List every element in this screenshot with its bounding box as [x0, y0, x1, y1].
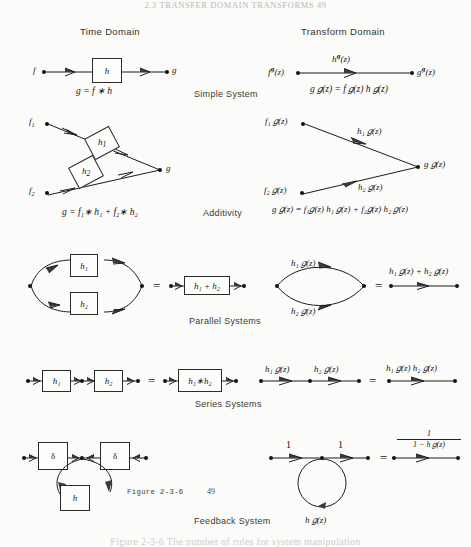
feedback-transform-output-node [366, 456, 370, 460]
feedback-transform-loop-label: h 𝑔(z) [305, 516, 326, 525]
running-head: 2.3 TRANSFER DOMAIN TRANSFORMS 49 [0, 0, 471, 10]
series-transform-edge1-label: h₁ 𝑔(z) [265, 365, 289, 374]
parallel-transform-result-arrow [391, 280, 457, 292]
simple-time-input-label: f [33, 66, 36, 75]
series-transform-arrow-2 [310, 375, 360, 387]
row-label-parallel-systems: Parallel Systems [189, 316, 261, 326]
row-label-feedback-system: Feedback System [194, 516, 271, 526]
series-time-result-output-node [234, 379, 238, 383]
additivity-time-output-node [158, 168, 162, 172]
figure-number: Figure 2-3-6 [127, 488, 184, 496]
feedback-transform-equals: = [380, 450, 387, 466]
parallel-time-block1: h₁ [70, 254, 98, 277]
parallel-transform-result-output-node [455, 284, 459, 288]
feedback-time-loop-block: h [60, 485, 90, 511]
additivity-time-edges [0, 110, 200, 210]
series-transform-result-output-node [453, 379, 457, 383]
feedback-time-output-node [144, 456, 148, 460]
figure-caption: Figure 2-3-6 The number of rules for sys… [0, 536, 471, 547]
parallel-time-result-block: h₁ + h₂ [184, 276, 230, 295]
feedback-transform-edge1-label: 1 [286, 440, 291, 450]
simple-transform-output-node [410, 71, 414, 75]
simple-transform-output-label: gg(z) [417, 67, 435, 77]
parallel-transform-result-label: h₁ 𝑔(z) + h₂ 𝑔(z) [389, 267, 448, 276]
simple-time-arrow-out [122, 64, 170, 80]
feedback-transform-loop [295, 455, 355, 517]
simple-time-output-node [165, 70, 169, 74]
feedback-transform-result-output-node [456, 456, 460, 460]
series-time-result-block: h₁∗h₂ [178, 369, 222, 392]
simple-transform-input-label: fg(z) [268, 67, 284, 77]
parallel-transform-edges [272, 256, 382, 332]
series-transform-result-arrow [389, 375, 455, 387]
parallel-transform-equals: = [375, 278, 382, 294]
simple-time-block: h [92, 58, 122, 83]
simple-transform-equation: g 𝑔(z) = f 𝑔(z) h 𝑔(z) [310, 84, 388, 95]
series-time-arrow-1 [29, 375, 43, 387]
parallel-time-result-arrow-in [171, 280, 185, 292]
simple-time-arrow-in [45, 64, 95, 80]
additivity-transform-edge2-label: h₂ 𝑔(z) [358, 183, 382, 192]
simple-time-equation: g = f ∗ h [76, 85, 112, 96]
series-time-equals: = [148, 373, 155, 389]
series-time-output-node [136, 379, 140, 383]
figure-page: 2.3 TRANSFER DOMAIN TRANSFORMS 49 Time D… [0, 0, 471, 547]
fraction-numerator: 1 [397, 429, 461, 439]
parallel-time-equals: = [153, 278, 160, 294]
simple-transform-arrow [298, 65, 412, 81]
page-number: 49 [207, 487, 215, 496]
parallel-time-block2: h₂ [70, 292, 98, 315]
column-heading-transform-domain: Transform Domain [301, 26, 385, 37]
additivity-time-output-label: g [166, 164, 171, 173]
parallel-time-result-output-node [242, 284, 246, 288]
fraction-denominator: 1 − h 𝑔(z) [397, 439, 461, 450]
additivity-time-equation: g = f₁∗ h₁ + f₂∗ h₂ [62, 206, 138, 217]
additivity-transform-edge1-label: h₁ 𝑔(z) [357, 127, 381, 136]
series-transform-equals: = [369, 373, 376, 389]
feedback-transform-result-fraction: 1 1 − h 𝑔(z) [397, 429, 461, 449]
feedback-transform-edge2-label: 1 [338, 440, 343, 450]
series-transform-result-label: h₁ 𝑔(z) h₂ 𝑔(z) [386, 364, 437, 373]
additivity-transform-output-label: g 𝑔(z) [424, 160, 445, 169]
series-transform-arrow-1 [261, 375, 311, 387]
row-label-additivity: Additivity [203, 208, 242, 218]
simple-time-output-label: g [172, 66, 177, 75]
series-time-block1: h₁ [42, 370, 71, 392]
feedback-transform-result-arrow [394, 452, 458, 464]
additivity-transform-equation: g 𝑔(z) = f₁𝑔(z) h₁ 𝑔(z) + f₂𝑔(z) h₂ 𝑔(z) [272, 204, 408, 215]
parallel-transform-edge2-label: h₂ 𝑔(z) [291, 307, 315, 316]
parallel-transform-output-node [362, 284, 366, 288]
parallel-time-edges [24, 250, 174, 340]
simple-transform-edge-label: hg(z) [332, 54, 350, 64]
row-label-simple-system: Simple System [194, 89, 258, 99]
additivity-transform-output-node [416, 165, 420, 169]
series-transform-output-node [357, 379, 361, 383]
row-label-series-systems: Series Systems [195, 399, 262, 409]
series-transform-edge2-label: h₂ 𝑔(z) [314, 365, 338, 374]
parallel-transform-edge1-label: h₁ 𝑔(z) [291, 259, 315, 268]
series-time-block2: h₂ [94, 370, 123, 392]
column-heading-time-domain: Time Domain [80, 26, 140, 37]
parallel-time-output-node [140, 284, 144, 288]
